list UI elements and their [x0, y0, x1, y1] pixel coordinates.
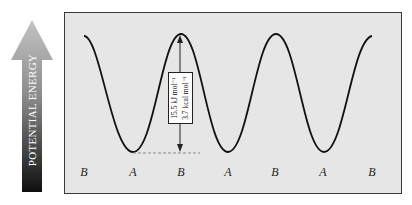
conformation-label: A	[313, 165, 333, 180]
conformation-label: B	[265, 165, 285, 180]
energy-kj: 15.5 kJ mol⁻¹	[168, 72, 179, 124]
energy-curve	[0, 0, 412, 205]
conformation-label: B	[362, 165, 382, 180]
conformation-label: A	[123, 165, 143, 180]
conformation-label: B	[74, 165, 94, 180]
conformation-label: B	[171, 165, 191, 180]
conformation-label: A	[218, 165, 238, 180]
energy-barrier-label: 15.5 kJ mol⁻¹ 3.7 kcal mol⁻¹	[168, 72, 193, 124]
energy-kcal: 3.7 kcal mol⁻¹	[179, 72, 190, 124]
